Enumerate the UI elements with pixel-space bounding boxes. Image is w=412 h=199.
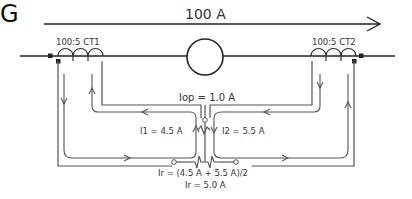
terminal-op-top <box>203 118 208 123</box>
ct1-coil-icon <box>58 49 103 61</box>
secondary-wiring <box>58 61 354 168</box>
ct2-polarity-dot <box>359 54 364 59</box>
ct2-coil-icon <box>311 49 356 61</box>
restraint-formula-label: Ir = (4.5 A + 5.5 A)/2 <box>158 168 248 178</box>
ct2-label: 100:5 CT2 <box>312 37 356 47</box>
terminal-restraint-right <box>234 160 239 165</box>
operate-current-label: Iop = 1.0 A <box>179 92 235 103</box>
generator-symbol <box>187 39 223 75</box>
i1-label: I1 = 4.5 A <box>140 126 182 136</box>
ct1-polarity-dot <box>48 54 53 59</box>
i2-label: I2 = 5.5 A <box>222 126 264 136</box>
terminal-restraint-left <box>172 160 177 165</box>
ct1-label: 100:5 CT1 <box>56 37 100 47</box>
restraint-result-label: Ir = 5.0 A <box>185 180 226 190</box>
current-flow-paths <box>64 74 348 158</box>
primary-current-label: 100 A <box>185 6 226 22</box>
